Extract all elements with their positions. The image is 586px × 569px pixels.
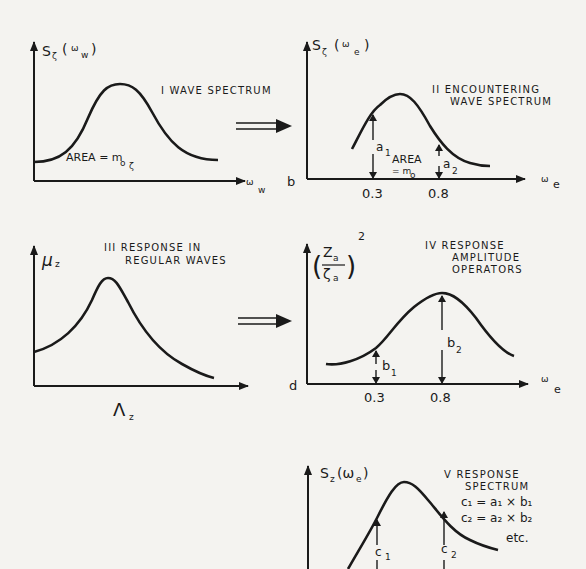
etc-label: etc. (506, 531, 529, 545)
tick-0-3: 0.3 (364, 390, 385, 405)
b1-label: b (382, 358, 390, 373)
b1-sub: 1 (391, 368, 397, 378)
a2-label: a (443, 157, 450, 171)
y-axis-label-sub: z (330, 474, 335, 484)
x-axis-label: ω (246, 177, 254, 187)
panel-wave-spectrum: S ζ ( ω w ) I WAVE SPECTRUM AREA = m o ζ… (34, 41, 272, 195)
y-axis-label: μ (41, 250, 53, 270)
y-axis-label-paren-close: ) (91, 41, 96, 57)
x-axis-label-sub: w (258, 185, 265, 195)
panel-title: II ENCOUNTERING (432, 84, 540, 95)
y-axis-label-num-sub: a (333, 253, 339, 263)
area-label: AREA (392, 153, 422, 166)
y-axis-label-sub: z (55, 259, 60, 269)
y-axis-label: S (320, 465, 329, 481)
x-axis-label-sub: z (129, 412, 134, 422)
panel-title-line2: SPECTRUM (465, 481, 529, 492)
y-axis-label: S (312, 37, 321, 53)
y-axis-label-paren: ( (62, 41, 67, 57)
c1-label: c (375, 545, 382, 559)
panel-title-line3: OPERATORS (452, 264, 523, 275)
panel-rao: ( Z a ζ a ) 2 IV RESPONSE AMPLITUDE OPER… (289, 230, 561, 405)
transform-arrow-1 (236, 119, 292, 133)
area-label-sub: o (410, 170, 416, 180)
c1-sub: 1 (385, 552, 391, 562)
y-axis-label-omega-sub: w (81, 50, 88, 60)
a1-sub: 1 (385, 148, 391, 158)
x-axis-label-sub: e (554, 383, 561, 396)
rao-curve (326, 293, 514, 364)
y-axis-label-paren-close: ) (364, 37, 369, 53)
area-label: AREA = m (66, 151, 123, 164)
y-axis-label-den-sub: a (333, 273, 339, 283)
y-axis-label-arg-sub: e (356, 474, 362, 484)
y-axis-label-den: ζ (323, 266, 331, 282)
transform-arrow-2 (238, 314, 292, 328)
y-axis-label-paren: ( (334, 37, 339, 53)
area-sub-o: o (120, 158, 126, 168)
panel-response-spectrum: S z (ω e ) V RESPONSE SPECTRUM c₁ = a₁ ×… (308, 465, 533, 569)
panel-title: IV RESPONSE (425, 240, 505, 251)
area-sub-zeta: ζ (129, 161, 134, 171)
y-axis-label-sub: ζ (52, 51, 57, 61)
x-axis-label: Λ (113, 399, 126, 420)
a2-sub: 2 (452, 166, 458, 176)
c2-label: c (441, 542, 448, 556)
y-axis-label: S (42, 43, 51, 59)
b2-label: b (447, 335, 455, 350)
tick-0-8: 0.8 (430, 390, 451, 405)
y-axis-label-omega-sub: e (354, 47, 360, 57)
y-axis-label-exp: 2 (358, 230, 365, 243)
c2-sub: 2 (451, 550, 457, 560)
response-curve (34, 278, 214, 378)
panel-encountering-spectrum: S ζ ( ω e ) II ENCOUNTERING WAVE SPECTRU… (287, 37, 560, 201)
tick-0-8: 0.8 (428, 186, 449, 201)
area-label-line2: = m (392, 166, 411, 176)
tick-0-3: 0.3 (362, 186, 383, 201)
corner-letter: d (289, 378, 297, 393)
panel-title: III RESPONSE IN (104, 242, 201, 253)
equation-c1: c₁ = a₁ × b₁ (461, 495, 533, 509)
y-axis-label-rparen: ) (346, 251, 356, 281)
y-axis-label-omega: ω (342, 39, 350, 49)
x-axis-label-sub: e (553, 178, 560, 191)
y-axis-label-omega: ω (71, 43, 79, 53)
a1-label: a (376, 140, 383, 154)
y-axis-label-lparen: ( (312, 251, 322, 281)
panel-title: V RESPONSE (444, 469, 520, 480)
y-axis-label-sub: ζ (322, 47, 327, 57)
y-axis-label-num: Z (323, 244, 333, 260)
y-axis-label-arg: (ω (337, 465, 354, 481)
panel-title: I WAVE SPECTRUM (161, 85, 272, 96)
corner-letter: b (287, 174, 295, 189)
spectral-analysis-diagram: S ζ ( ω w ) I WAVE SPECTRUM AREA = m o ζ… (0, 0, 586, 569)
equation-c2: c₂ = a₂ × b₂ (461, 511, 533, 525)
y-axis-label-close: ) (363, 465, 368, 481)
panel-title-line2: AMPLITUDE (452, 252, 520, 263)
x-axis-label: ω (541, 174, 549, 184)
panel-title-line2: REGULAR WAVES (125, 255, 227, 266)
x-axis-label: ω (541, 374, 549, 384)
b2-sub: 2 (456, 345, 462, 355)
panel-title-line2: WAVE SPECTRUM (450, 96, 552, 107)
panel-response-regular-waves: μ z III RESPONSE IN REGULAR WAVES Λ z (34, 242, 248, 422)
